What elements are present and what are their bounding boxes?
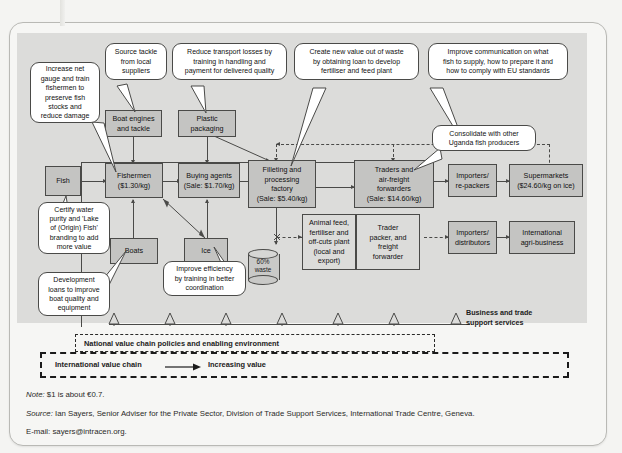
callout-reduce-transport[interactable]: Reduce transport losses by training in h… (172, 43, 287, 80)
callout-text: Create new value out of waste by obtaini… (309, 47, 403, 75)
increasing-value-arrow-icon (163, 363, 207, 373)
node-label: Supermarkets ($24.60/kg on ice) (517, 171, 575, 190)
increasing-value-label: Increasing value (205, 360, 269, 369)
support-services-label: Business and trade support services (466, 308, 576, 327)
callout-tail-source-tackle (110, 75, 180, 125)
callout-communication[interactable]: Improve communication on what fish to su… (428, 43, 568, 80)
callout-text: Source tackle from local suppliers (115, 47, 157, 75)
callout-text: Consolidate with other Uganda fish produ… (449, 129, 519, 148)
node-label: International agri-business (521, 228, 564, 247)
callout-tail-waste-value (286, 75, 376, 170)
international-value-chain-label: International value chain (52, 360, 145, 369)
note-line: Note: $1 is about €0.7. (26, 390, 104, 401)
callout-tail-transport (178, 75, 248, 125)
node-label: Animal feed, fertiliser and off-cuts pla… (308, 218, 349, 266)
node-animal-feed-plant[interactable]: Animal feed, fertiliser and off-cuts pla… (302, 214, 356, 270)
callout-waste-value[interactable]: Create new value out of waste by obtaini… (294, 43, 419, 80)
callout-text: Increase net gauge and train fishermen t… (41, 64, 90, 120)
source-text: Ian Sayers, Senior Adviser for the Priva… (53, 409, 475, 418)
support-service-markers (103, 306, 483, 326)
arrowhead (131, 199, 135, 203)
note-prefix: Note: (26, 390, 45, 399)
connector-boats-fishermen (133, 200, 134, 238)
node-label: Filleting and processing factory (Sale: … (257, 165, 308, 203)
callout-certify[interactable]: Certify water purity and 'Lake of (Origi… (38, 202, 110, 254)
national-policy-label: National value chain policies and enabli… (76, 339, 279, 348)
page-spine (60, 0, 65, 26)
callout-dev-loans[interactable]: Development loans to improve boat qualit… (38, 272, 110, 316)
diagram-page: Fish Boat engines and tackle Plastic pac… (0, 0, 622, 453)
node-importers-distributors[interactable]: Importers/ distributors (448, 221, 497, 254)
node-trader-packer[interactable]: Trader packer, and freight forwarder (356, 214, 420, 270)
connector-agents-ice-diagonal (160, 196, 216, 244)
callout-text: Development loans to improve boat qualit… (48, 275, 99, 313)
node-label: Buying agents (Sale: $1.70/kg) (184, 171, 235, 190)
node-label: Importers/ distributors (455, 228, 490, 247)
node-label: Trader packer, and freight forwarder (369, 223, 406, 261)
node-supermarkets[interactable]: Supermarkets ($24.60/kg on ice) (509, 164, 583, 197)
node-buying-agents[interactable]: Buying agents (Sale: $1.70/kg) (178, 163, 240, 198)
source-prefix: Source: (26, 409, 53, 418)
callout-text: Improve efficiency by training in better… (175, 264, 235, 292)
callout-consolidate[interactable]: Consolidate with other Uganda fish produ… (432, 125, 536, 151)
callout-text: Reduce transport losses by training in h… (185, 47, 275, 75)
callout-efficiency[interactable]: Improve efficiency by training in better… (163, 261, 246, 296)
email-line: E-mail: sayers@intracen.org. (26, 427, 127, 438)
source-line: Source: Ian Sayers, Senior Adviser for t… (26, 409, 475, 420)
node-agri-business[interactable]: International agri-business (509, 221, 575, 254)
callout-net-gauge[interactable]: Increase net gauge and train fishermen t… (30, 62, 100, 123)
note-text: $1 is about €0.7. (45, 390, 105, 399)
connector-filleting-traders (316, 187, 354, 188)
callout-text: Certify water purity and 'Lake of (Origi… (49, 205, 98, 252)
node-label: Importers/ re-packers (456, 171, 490, 190)
break-marker-icon (272, 232, 282, 242)
callout-source-tackle[interactable]: Source tackle from local suppliers (105, 43, 167, 80)
callout-text: Improve communication on what fish to su… (443, 47, 553, 75)
national-policy-band: National value chain policies and enabli… (75, 334, 435, 352)
